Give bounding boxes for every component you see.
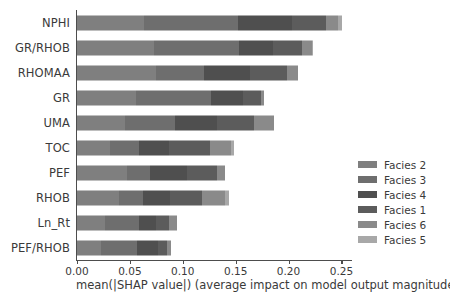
bar-segment — [105, 215, 139, 230]
bar-segment — [158, 240, 168, 255]
y-tick-label-uma: UMA — [43, 116, 70, 130]
legend-item[interactable]: Facies 5 — [358, 233, 426, 246]
bar-segment — [243, 90, 260, 105]
bar-segment — [139, 140, 169, 155]
bar-row — [77, 165, 225, 180]
bar-segment — [302, 40, 312, 55]
legend-swatch — [358, 191, 377, 199]
x-tick-label: 0.10 — [171, 265, 194, 277]
bar-segment — [150, 165, 186, 180]
x-tick-mark — [130, 260, 131, 264]
bar-row — [77, 240, 171, 255]
x-tick-mark — [236, 260, 237, 264]
x-axis-title: mean(|SHAP value|) (average impact on mo… — [76, 278, 351, 292]
bar-row — [77, 65, 298, 80]
x-tick-label: 0.25 — [330, 265, 353, 277]
bar-segment — [144, 15, 237, 30]
bar-row — [77, 140, 234, 155]
bar-segment — [231, 140, 234, 155]
legend-swatch — [358, 206, 377, 214]
legend-label: Facies 1 — [384, 204, 426, 216]
bar-segment — [125, 115, 175, 130]
x-tick-mark — [183, 260, 184, 264]
bar-segment — [170, 190, 202, 205]
y-tick-label-toc: TOC — [46, 141, 70, 155]
legend-item[interactable]: Facies 4 — [358, 188, 426, 201]
legend-label: Facies 4 — [384, 189, 426, 201]
x-tick-mark — [77, 260, 78, 264]
bar-row — [77, 190, 229, 205]
bar-segment — [167, 240, 171, 255]
bar-segment — [287, 65, 299, 80]
bar-segment — [77, 190, 119, 205]
bar-segment — [217, 165, 225, 180]
x-tick-label: 0.00 — [65, 265, 88, 277]
x-tick-label: 0.15 — [224, 265, 247, 277]
bar-segment — [292, 15, 326, 30]
bar-segment — [77, 165, 127, 180]
bar-segment — [175, 115, 217, 130]
bar-segment — [77, 65, 156, 80]
bar-segment — [119, 190, 143, 205]
legend-label: Facies 5 — [384, 234, 426, 246]
x-tick-mark — [341, 260, 342, 264]
bar-segment — [139, 215, 156, 230]
y-tick-label-gr-rhob: GR/RHOB — [15, 41, 70, 55]
x-tick-label: 0.20 — [277, 265, 300, 277]
bar-segment — [239, 40, 274, 55]
legend-item[interactable]: Facies 2 — [358, 158, 426, 171]
bar-segment — [110, 140, 140, 155]
bar-segment — [77, 115, 125, 130]
y-tick-label-gr: GR — [53, 91, 70, 105]
bar-row — [77, 15, 342, 30]
bar-segment — [77, 90, 136, 105]
legend-swatch — [358, 176, 377, 184]
bar-row — [77, 90, 264, 105]
bar-segment — [261, 90, 265, 105]
bar-segment — [169, 140, 209, 155]
y-tick-label-pef: PEF — [49, 166, 70, 180]
bar-segment — [204, 65, 250, 80]
bar-segment — [211, 90, 244, 105]
legend-swatch — [358, 221, 377, 229]
bar-segment — [312, 40, 313, 55]
bar-segment — [77, 15, 144, 30]
bar-segment — [77, 215, 105, 230]
bar-segment — [156, 215, 169, 230]
bar-segment — [127, 165, 150, 180]
bar-segment — [136, 90, 211, 105]
bar-segment — [169, 215, 177, 230]
bar-segment — [254, 115, 274, 130]
legend-label: Facies 3 — [384, 174, 426, 186]
bar-row — [77, 40, 313, 55]
bar-segment — [187, 165, 218, 180]
legend-swatch — [358, 236, 377, 244]
bar-segment — [217, 115, 253, 130]
bar-segment — [143, 190, 170, 205]
bar-segment — [156, 65, 204, 80]
bar-segment — [250, 65, 286, 80]
legend-item[interactable]: Facies 3 — [358, 173, 426, 186]
legend-item[interactable]: Facies 6 — [358, 218, 426, 231]
bar-segment — [338, 15, 342, 30]
bar-segment — [202, 190, 225, 205]
bar-segment — [137, 240, 157, 255]
bar-segment — [210, 140, 231, 155]
legend-item[interactable]: Facies 1 — [358, 203, 426, 216]
chart-legend: Facies 2Facies 3Facies 4Facies 1Facies 6… — [358, 158, 426, 246]
bar-segment — [77, 240, 101, 255]
y-tick-label-rhob: RHOB — [36, 191, 70, 205]
bar-segment — [225, 190, 229, 205]
legend-swatch — [358, 161, 377, 169]
x-tick-mark — [289, 260, 290, 264]
bar-segment — [326, 15, 338, 30]
bar-row — [77, 115, 274, 130]
y-tick-label-nphi: NPHI — [42, 16, 70, 30]
bar-segment — [273, 40, 302, 55]
bar-segment — [77, 40, 154, 55]
x-tick-label: 0.05 — [118, 265, 141, 277]
y-tick-label-pef-rhob: PEF/RHOB — [11, 241, 70, 255]
bar-segment — [77, 140, 110, 155]
bar-segment — [154, 40, 239, 55]
y-tick-label-ln-rt: Ln_Rt — [38, 216, 70, 230]
